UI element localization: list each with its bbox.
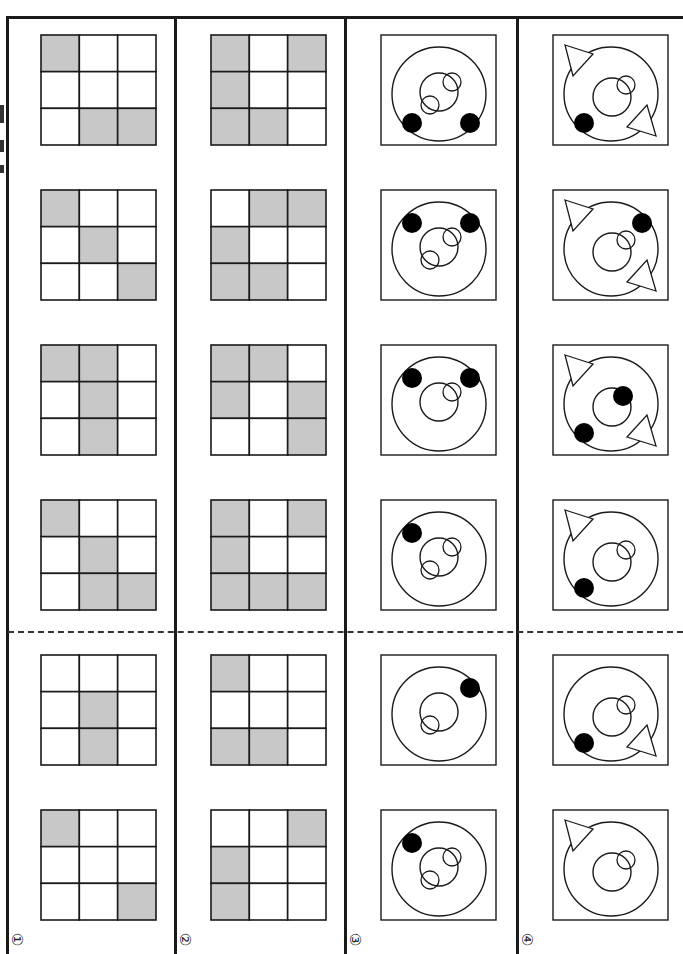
empty-cell xyxy=(79,190,117,227)
empty-cell xyxy=(41,692,79,729)
empty-cell xyxy=(79,810,117,847)
shaded-cell xyxy=(211,35,249,72)
empty-cell xyxy=(118,72,156,109)
empty-cell xyxy=(118,847,156,884)
option-3-figure-2 xyxy=(381,190,496,300)
empty-cell xyxy=(79,500,117,537)
empty-cell xyxy=(79,72,117,109)
shaded-cell xyxy=(211,382,249,419)
black-dot-icon xyxy=(574,733,594,753)
option-4-figure-3 xyxy=(553,345,668,455)
empty-cell xyxy=(249,500,287,537)
shaded-cell xyxy=(211,537,249,574)
option-2-figure-6 xyxy=(211,810,326,920)
shaded-cell xyxy=(288,500,326,537)
empty-cell xyxy=(118,382,156,419)
empty-cell xyxy=(249,810,287,847)
shaded-cell xyxy=(79,573,117,610)
shaded-cell xyxy=(79,537,117,574)
option-2-figure-4 xyxy=(211,500,326,610)
shaded-cell xyxy=(118,573,156,610)
empty-cell xyxy=(41,655,79,692)
empty-cell xyxy=(288,537,326,574)
cut-off-margin-text xyxy=(0,105,4,123)
empty-cell xyxy=(249,692,287,729)
shaded-cell xyxy=(211,883,249,920)
empty-cell xyxy=(79,35,117,72)
empty-cell xyxy=(118,655,156,692)
shaded-cell xyxy=(288,382,326,419)
empty-cell xyxy=(249,847,287,884)
empty-cell xyxy=(288,655,326,692)
shaded-cell xyxy=(288,190,326,227)
empty-cell xyxy=(118,35,156,72)
empty-cell xyxy=(118,537,156,574)
shaded-cell xyxy=(41,500,79,537)
shaded-cell xyxy=(118,108,156,145)
option-2-figure-2 xyxy=(211,190,326,300)
empty-cell xyxy=(118,500,156,537)
black-dot-icon xyxy=(402,113,422,133)
cut-off-margin-text xyxy=(0,140,4,152)
empty-cell xyxy=(41,573,79,610)
shaded-cell xyxy=(211,227,249,264)
column-divider xyxy=(344,16,347,954)
empty-cell xyxy=(41,108,79,145)
shaded-cell xyxy=(118,883,156,920)
empty-cell xyxy=(249,537,287,574)
empty-cell xyxy=(249,35,287,72)
option-3-figure-6 xyxy=(381,810,496,920)
shaded-cell xyxy=(249,345,287,382)
option-3-figure-5 xyxy=(381,655,496,765)
empty-cell xyxy=(249,382,287,419)
shaded-cell xyxy=(211,573,249,610)
option-2-figure-3 xyxy=(211,345,326,455)
black-dot-icon xyxy=(402,833,422,853)
option-2-figure-1 xyxy=(211,35,326,145)
black-dot-icon xyxy=(574,578,594,598)
shaded-cell xyxy=(211,655,249,692)
empty-cell xyxy=(41,227,79,264)
empty-cell xyxy=(288,692,326,729)
empty-cell xyxy=(118,190,156,227)
black-dot-icon xyxy=(402,523,422,543)
shaded-cell xyxy=(41,190,79,227)
option-2-figure-5 xyxy=(211,655,326,765)
empty-cell xyxy=(118,810,156,847)
option-1-figure-3 xyxy=(41,345,156,455)
shaded-cell xyxy=(79,728,117,765)
shaded-cell xyxy=(288,418,326,455)
column-divider xyxy=(174,16,177,954)
empty-cell xyxy=(288,728,326,765)
shaded-cell xyxy=(249,108,287,145)
shaded-cell xyxy=(79,227,117,264)
shaded-cell xyxy=(211,500,249,537)
shaded-cell xyxy=(288,810,326,847)
option-label-4: ④ xyxy=(519,933,534,946)
column-divider xyxy=(516,16,519,954)
option-3-figure-3 xyxy=(381,345,496,455)
shaded-cell xyxy=(249,573,287,610)
empty-cell xyxy=(249,227,287,264)
empty-cell xyxy=(41,382,79,419)
option-4-figure-1 xyxy=(553,35,668,145)
empty-cell xyxy=(118,418,156,455)
empty-cell xyxy=(288,345,326,382)
option-1-figure-4 xyxy=(41,500,156,610)
empty-cell xyxy=(118,692,156,729)
option-3-figure-4 xyxy=(381,500,496,610)
empty-cell xyxy=(118,728,156,765)
empty-cell xyxy=(41,418,79,455)
empty-cell xyxy=(249,72,287,109)
shaded-cell xyxy=(211,728,249,765)
shaded-cell xyxy=(288,573,326,610)
empty-cell xyxy=(288,72,326,109)
empty-cell xyxy=(288,263,326,300)
black-dot-icon xyxy=(460,368,480,388)
shaded-cell xyxy=(211,108,249,145)
black-dot-icon xyxy=(460,213,480,233)
cut-off-margin-text xyxy=(0,165,4,173)
dashed-divider xyxy=(8,631,683,633)
empty-cell xyxy=(288,227,326,264)
shaded-cell xyxy=(211,345,249,382)
